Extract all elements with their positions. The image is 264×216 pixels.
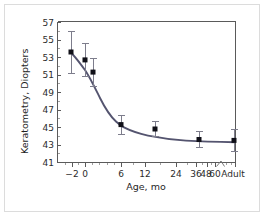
y-tick-label: 47 [43,105,54,115]
y-tick-label: 45 [43,123,54,133]
y-tick-label: 57 [43,18,54,28]
x-tick-label: 12 [139,169,150,179]
x-tick-label: 60 [209,169,221,179]
y-tick-label: 53 [43,53,54,63]
data-point [197,137,202,142]
x-tick-label: 24 [170,169,182,179]
error-bars [68,31,238,152]
data-point [119,122,124,127]
x-tick-label: −2 [65,169,78,179]
y-tick-label: 49 [43,88,55,98]
data-points [69,50,237,143]
y-tick-label: 43 [43,140,54,150]
figure-root: Keratometry, Diopters 41 43 45 47 49 51 … [0,0,264,216]
data-point [91,70,96,75]
y-axis-title: Keratometry, Diopters [19,48,30,154]
y-tick-label: 55 [43,35,54,45]
x-tick-label: Adult [221,169,245,179]
axis-break-icon [217,161,225,167]
data-point [69,50,74,55]
x-axis-ticks [72,163,235,167]
y-tick-label: 51 [43,70,54,80]
y-tick-labels: 41 43 45 47 49 51 53 55 57 [43,18,55,168]
x-tick-labels: −2 0 6 12 24 36 48 60 Adult [65,169,245,179]
data-point [153,127,158,132]
x-tick-label: 6 [118,169,124,179]
y-tick-label: 41 [43,158,54,168]
data-point [232,138,237,143]
keratometry-age-chart: Keratometry, Diopters 41 43 45 47 49 51 … [0,0,264,216]
x-tick-label: 0 [82,169,88,179]
x-axis-title: Age, mo [126,181,166,192]
data-point [83,57,88,62]
chart-plot-area: Keratometry, Diopters 41 43 45 47 49 51 … [0,0,264,216]
